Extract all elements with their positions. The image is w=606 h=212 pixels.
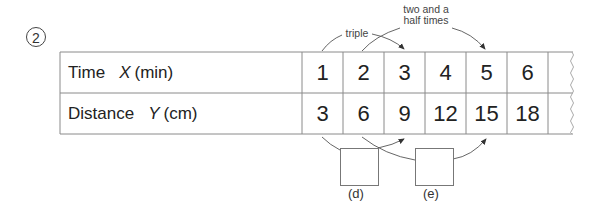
time-value: 3 — [384, 52, 425, 93]
time-value: 1 — [302, 52, 343, 93]
distance-value: 15 — [466, 93, 507, 134]
proportion-table: TimeX(min) DistanceY(cm) 1 2 3 4 5 6 3 6… — [60, 52, 576, 135]
annotation-line: half times — [398, 15, 454, 26]
label-d: (d) — [348, 186, 364, 201]
time-value: 6 — [507, 52, 548, 93]
row-variable: Y — [148, 104, 159, 124]
time-value: 2 — [343, 52, 384, 93]
answer-box-d[interactable] — [340, 148, 379, 186]
row-unit: (cm) — [163, 104, 197, 124]
distance-value: 6 — [343, 93, 384, 134]
time-value: 5 — [466, 52, 507, 93]
row-name: Distance — [68, 104, 134, 124]
row-variable: X — [119, 63, 130, 83]
row-unit: (min) — [135, 63, 174, 83]
row-name: Time — [68, 63, 105, 83]
distance-value: 3 — [302, 93, 343, 134]
row-header-distance: DistanceY(cm) — [60, 93, 302, 134]
distance-value: 9 — [384, 93, 425, 134]
label-e: (e) — [423, 186, 439, 201]
answer-box-e[interactable] — [415, 148, 454, 186]
row-header-time: TimeX(min) — [60, 52, 302, 93]
annotation-two-and-a-half-times: two and a half times — [398, 4, 454, 26]
annotation-triple: triple — [340, 28, 374, 39]
distance-value: 18 — [507, 93, 548, 134]
time-value: 4 — [425, 52, 466, 93]
distance-value: 12 — [425, 93, 466, 134]
